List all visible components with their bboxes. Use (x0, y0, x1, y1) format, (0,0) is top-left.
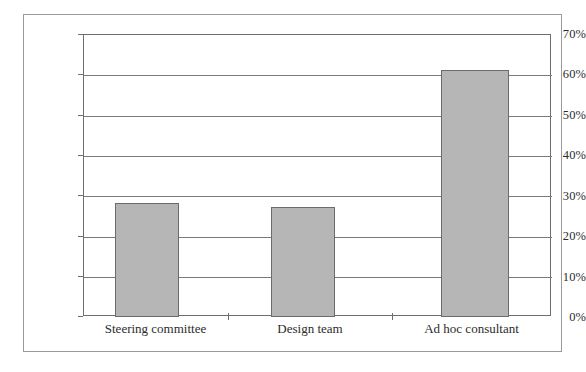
xtick-label-steering-committee: Steering committee (83, 322, 228, 335)
ytick-mark-0 (78, 316, 83, 317)
xtick-label-ad-hoc-consultant: Ad hoc consultant (392, 322, 551, 335)
bar-design-team[interactable] (271, 207, 335, 317)
category-divider-2 (392, 313, 393, 320)
bar-ad-hoc-consultant[interactable] (441, 70, 509, 317)
category-divider-1 (228, 313, 229, 320)
bar-chart-figure: 70% 60% 50% 40% 30% 20% 10% 0% Steering … (0, 0, 586, 372)
bar-steering-committee[interactable] (115, 203, 179, 317)
plot-area (83, 34, 551, 316)
xtick-label-design-team: Design team (228, 322, 392, 335)
